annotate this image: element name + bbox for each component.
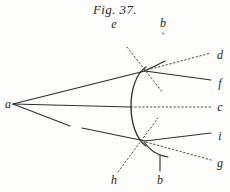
normal-line-lower-dotted — [118, 118, 158, 172]
figure-37-diagram: Fig. 37. a e b — [0, 0, 230, 192]
virtual-ray-upper-to-d — [147, 53, 211, 70]
point-label-g: g — [217, 157, 223, 169]
virtual-ray-lower-to-g — [146, 142, 211, 160]
point-label-f: f — [218, 77, 221, 89]
point-label-a: a — [5, 98, 11, 110]
point-label-b-bottom: b — [157, 174, 163, 186]
lower-exit-stroke — [144, 142, 168, 157]
reflected-ray-upper-to-f — [145, 71, 211, 80]
point-label-b-top: b — [160, 17, 166, 29]
incident-ray-upper — [13, 71, 145, 104]
normal-line-upper-dotted — [127, 47, 163, 93]
point-label-d: d — [217, 49, 223, 61]
reflected-ray-lower-to-i — [145, 133, 211, 141]
point-label-c: c — [217, 101, 222, 113]
point-label-e: e — [111, 18, 116, 30]
incident-ray-lower-near-a — [13, 104, 70, 126]
point-label-h: h — [111, 174, 117, 186]
point-label-i: i — [218, 130, 221, 142]
axis-ray-solid — [13, 104, 131, 107]
